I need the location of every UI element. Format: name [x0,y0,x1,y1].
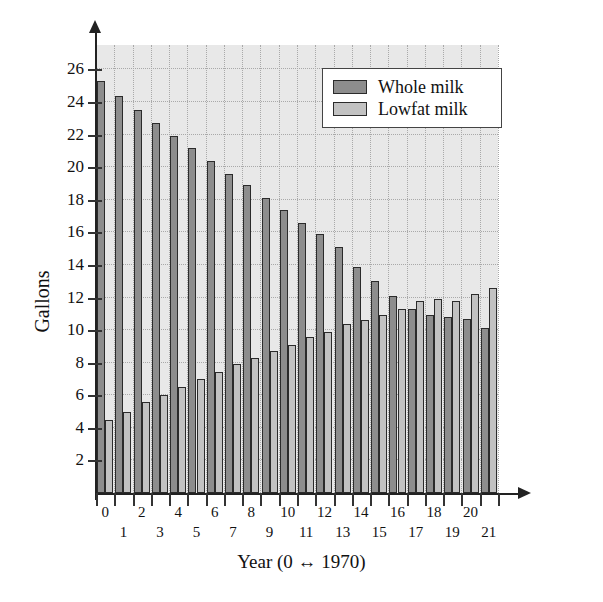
x-tick-label: 7 [229,525,237,540]
y-tick-label: 20 [67,158,84,175]
x-tick [242,493,244,506]
bar-lowfat-milk-year-8 [251,358,259,493]
x-tick [151,493,153,506]
bar-whole-milk-year-3 [152,123,160,493]
x-tick-label: 15 [372,525,387,540]
y-tick-label: 14 [67,256,84,273]
y-tick-label: 24 [67,93,84,110]
bar-whole-milk-year-14 [353,267,361,493]
bar-whole-milk-year-21 [481,328,489,493]
legend-label-lowfat-milk: Lowfat milk [378,100,467,118]
x-tick-label: 18 [427,505,442,520]
y-tick [88,102,102,104]
bar-whole-milk-year-10 [280,210,288,493]
x-axis-arrow [518,487,531,499]
bar-lowfat-milk-year-15 [379,315,387,493]
x-tick-label: 11 [299,525,313,540]
x-tick [260,493,262,506]
y-axis-title: Gallons [31,242,54,362]
x-tick [480,493,482,506]
y-tick-label: 10 [67,321,84,338]
y-tick [88,200,102,202]
x-tick-label: 2 [138,505,146,520]
bar-whole-milk-year-18 [426,315,434,493]
y-tick-label: 22 [67,126,84,143]
bar-lowfat-milk-year-6 [215,372,223,493]
legend-swatch-whole-milk [333,80,367,94]
x-tick [96,493,98,506]
legend-item-lowfat-milk: Lowfat milk [333,98,501,120]
y-tick-label: 18 [67,191,84,208]
x-tick-label: 3 [156,525,164,540]
x-tick [169,493,171,506]
y-tick [88,135,102,137]
x-tick [187,493,189,506]
x-tick-label: 16 [390,505,405,520]
bar-lowfat-milk-year-9 [270,351,278,493]
y-tick [88,69,102,71]
legend: Whole milk Lowfat milk [322,68,502,128]
bar-lowfat-milk-year-7 [233,364,241,493]
x-tick-label: 1 [120,525,128,540]
bar-lowfat-milk-year-5 [197,379,205,493]
x-tick [133,493,135,506]
y-tick [88,363,102,365]
y-tick [88,167,102,169]
bar-whole-milk-year-13 [335,247,343,493]
x-tick-label: 8 [248,505,256,520]
bar-lowfat-milk-year-18 [434,299,442,493]
x-tick [407,493,409,506]
bar-whole-milk-year-1 [115,96,123,493]
x-tick [224,493,226,506]
x-tick-label: 20 [463,505,478,520]
x-tick [370,493,372,506]
x-axis-title: Year (0 ↔ 1970) [0,551,603,573]
x-tick-label: 9 [266,525,274,540]
bar-lowfat-milk-year-16 [398,309,406,493]
bar-whole-milk-year-7 [225,174,233,493]
y-tick-label: 8 [76,354,85,371]
bar-whole-milk-year-12 [316,234,324,493]
bar-lowfat-milk-year-14 [361,320,369,493]
x-tick-label: 19 [445,525,460,540]
y-axis-arrow [89,20,101,33]
x-tick [334,493,336,506]
bar-lowfat-milk-year-12 [324,332,332,493]
legend-swatch-lowfat-milk [333,102,367,116]
x-tick [443,493,445,506]
bar-whole-milk-year-16 [389,296,397,493]
bar-lowfat-milk-year-13 [343,324,351,493]
x-tick [206,493,208,506]
bar-whole-milk-year-4 [170,136,178,493]
milk-consumption-bar-chart: 2468101214161820222426 01234567891011121… [0,0,603,602]
x-tick-label: 5 [193,525,201,540]
bar-whole-milk-year-6 [207,161,215,493]
y-tick [88,460,102,462]
bar-whole-milk-year-0 [97,81,105,493]
x-tick-label: 14 [353,505,368,520]
x-tick-label: 12 [317,505,332,520]
bar-whole-milk-year-17 [408,309,416,493]
bar-lowfat-milk-year-19 [452,301,460,493]
y-tick-label: 4 [76,419,85,436]
bar-lowfat-milk-year-20 [471,294,479,493]
x-tick-label: 0 [101,505,109,520]
bar-whole-milk-year-20 [463,319,471,493]
bar-whole-milk-year-19 [444,317,452,493]
bar-whole-milk-year-2 [134,110,142,493]
x-tick-label: 10 [280,505,295,520]
bar-lowfat-milk-year-10 [288,345,296,493]
bar-lowfat-milk-year-11 [306,337,314,493]
bar-whole-milk-year-9 [262,198,270,493]
y-tick-label: 12 [67,289,84,306]
bar-lowfat-milk-year-0 [105,420,113,493]
x-tick [297,493,299,506]
bar-lowfat-milk-year-21 [489,288,497,493]
bar-lowfat-milk-year-4 [178,387,186,493]
bar-whole-milk-year-8 [243,185,251,493]
x-tick-label: 17 [408,525,423,540]
legend-label-whole-milk: Whole milk [378,78,463,96]
y-tick-label: 16 [67,223,84,240]
y-tick-label: 26 [67,60,84,77]
y-tick-label: 6 [76,386,85,403]
